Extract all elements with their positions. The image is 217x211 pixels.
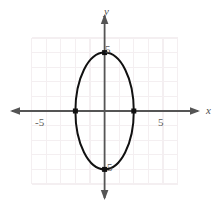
coordinate-plane-svg <box>0 0 217 211</box>
y-axis-label: y <box>104 6 109 17</box>
x-axis-label: x <box>206 105 211 116</box>
x-axis-arrow-left <box>10 107 20 115</box>
tick-label-y-negative-five: 5 <box>107 162 113 173</box>
point-co-vertex-left <box>73 109 78 114</box>
point-co-vertex-right <box>131 109 136 114</box>
x-axis-arrow-right <box>190 107 200 115</box>
y-axis-arrow-down <box>101 190 109 200</box>
tick-label-x-negative-five: -5 <box>35 117 44 128</box>
tick-label-y-positive-five: 5 <box>105 44 111 55</box>
tick-label-x-positive-five: 5 <box>158 117 164 128</box>
graph-figure: y x -5 5 5 5 <box>0 0 217 211</box>
